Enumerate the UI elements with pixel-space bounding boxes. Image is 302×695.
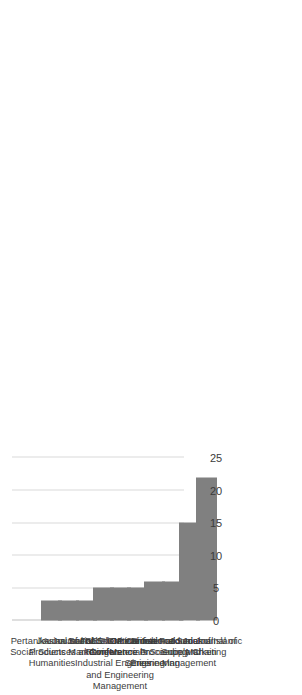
- gridline: [12, 457, 184, 458]
- gridline: [12, 522, 184, 523]
- gridline: [12, 554, 184, 555]
- value-tick-label: 15: [206, 516, 226, 528]
- value-tick-label: 10: [206, 549, 226, 561]
- value-tick-label: 20: [206, 484, 226, 496]
- value-tick-label: 25: [206, 451, 226, 463]
- category-label: Journal of Islamic Marketing: [156, 635, 256, 695]
- gridline: [12, 489, 184, 490]
- bar: [196, 477, 217, 620]
- value-tick-label: 0: [206, 614, 226, 626]
- value-tick-label: 5: [206, 581, 226, 593]
